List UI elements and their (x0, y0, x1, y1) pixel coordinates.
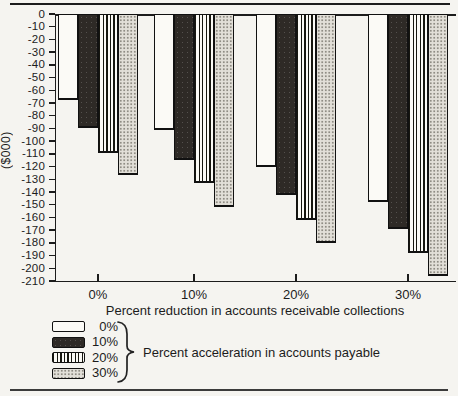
y-tick-label: -130 (5, 173, 45, 186)
y-tick-label: -190 (5, 249, 45, 262)
y-tick (49, 166, 55, 168)
y-tick-label: -180 (5, 236, 45, 249)
bar-10%-30% (214, 14, 234, 207)
y-tick (49, 191, 55, 193)
y-tick-label: -100 (5, 135, 45, 148)
bar-0%-0% (58, 14, 78, 100)
legend-row: 20% (52, 352, 118, 364)
y-tick (49, 268, 55, 270)
y-tick-label: -70 (5, 97, 45, 110)
x-category-label: 10% (164, 287, 224, 302)
y-tick-label: -10 (5, 20, 45, 33)
y-tick (49, 128, 55, 130)
legend-swatch-solid-dark (52, 337, 85, 348)
legend-title: Percent acceleration in accounts payable (143, 345, 380, 360)
bar-30%-30% (428, 14, 448, 276)
x-tick (193, 274, 195, 281)
bar-20%-10% (276, 14, 296, 195)
legend-swatch-vertical-stripes (52, 352, 85, 363)
legend-label: 10% (85, 336, 118, 348)
y-tick (49, 77, 55, 79)
y-tick (49, 217, 55, 219)
legend-swatch-dots (52, 368, 85, 379)
legend-label: 0% (85, 321, 118, 333)
y-tick (49, 64, 55, 66)
bar-10%-0% (154, 14, 174, 130)
bar-0%-20% (98, 14, 118, 153)
y-tick (49, 13, 55, 15)
x-tick (295, 274, 297, 281)
y-tick-label: -140 (5, 186, 45, 199)
y-tick-label: -50 (5, 71, 45, 84)
x-tick (97, 274, 99, 281)
y-tick-label: -160 (5, 211, 45, 224)
y-tick (49, 39, 55, 41)
legend: 0%10%20%30% (52, 321, 118, 383)
y-tick-label: -40 (5, 58, 45, 71)
legend-label: 20% (85, 352, 118, 364)
y-tick (49, 115, 55, 117)
y-tick (49, 153, 55, 155)
plot-area: 0-10-20-30-40-50-60-70-80-90-100-110-120… (55, 14, 456, 282)
bar-20%-0% (256, 14, 276, 167)
bar-10%-20% (194, 14, 214, 183)
y-tick-label: -120 (5, 160, 45, 173)
figure-scan: ($000) 0-10-20-30-40-50-60-70-80-90-100-… (0, 0, 458, 396)
y-tick-label: -170 (5, 224, 45, 237)
legend-brace (116, 320, 138, 384)
y-tick (49, 280, 55, 282)
legend-swatch-plain (52, 321, 85, 332)
y-tick-label: -90 (5, 122, 45, 135)
y-tick (49, 90, 55, 92)
bottom-rule (10, 389, 448, 391)
x-category-label: 0% (68, 287, 128, 302)
bar-30%-20% (408, 14, 428, 253)
bar-0%-30% (118, 14, 138, 175)
y-tick-label: -210 (5, 275, 45, 288)
y-tick (49, 242, 55, 244)
bar-30%-0% (368, 14, 388, 202)
y-tick (49, 179, 55, 181)
bar-20%-30% (316, 14, 336, 243)
bar-10%-10% (174, 14, 194, 160)
y-tick (49, 204, 55, 206)
y-tick (49, 255, 55, 257)
bar-30%-10% (388, 14, 408, 229)
x-category-label: 20% (266, 287, 326, 302)
y-tick (49, 102, 55, 104)
x-tick (407, 274, 409, 281)
y-tick-label: -200 (5, 262, 45, 275)
y-tick-label: -20 (5, 33, 45, 46)
legend-label: 30% (85, 367, 118, 379)
y-tick (49, 26, 55, 28)
y-tick-label: -110 (5, 147, 45, 160)
legend-row: 10% (52, 337, 118, 349)
bar-0%-10% (78, 14, 98, 128)
x-category-label: 30% (378, 287, 438, 302)
y-tick (49, 140, 55, 142)
y-tick (49, 229, 55, 231)
x-axis-title: Percent reduction in accounts receivable… (55, 303, 455, 318)
y-tick-label: -30 (5, 46, 45, 59)
y-tick-label: -80 (5, 109, 45, 122)
legend-row: 30% (52, 368, 118, 380)
y-tick-label: 0 (5, 8, 45, 21)
bar-20%-20% (296, 14, 316, 220)
y-tick-label: -150 (5, 198, 45, 211)
top-rule (10, 3, 450, 5)
legend-row: 0% (52, 321, 118, 333)
y-tick (49, 51, 55, 53)
y-tick-label: -60 (5, 84, 45, 97)
